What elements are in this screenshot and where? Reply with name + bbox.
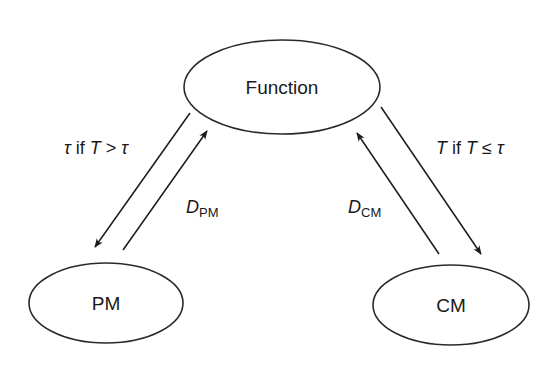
pm-label: PM xyxy=(92,293,121,314)
node-cm: CM xyxy=(373,265,529,345)
state-transition-diagram: Function PM CM τ if T > τ DPM DCM T if T… xyxy=(0,0,556,369)
label-function-to-pm: τ if T > τ xyxy=(64,138,129,158)
edge-cm-to-function xyxy=(357,133,439,254)
edge-function-to-pm xyxy=(95,113,190,247)
edge-function-to-cm xyxy=(381,107,481,254)
function-label: Function xyxy=(246,77,319,98)
label-pm-to-function: DPM xyxy=(186,197,219,220)
node-pm: PM xyxy=(29,263,183,343)
label-function-to-cm: T if T ≤ τ xyxy=(436,138,505,158)
label-cm-to-function: DCM xyxy=(348,197,381,220)
cm-label: CM xyxy=(436,295,466,316)
node-function: Function xyxy=(184,40,380,134)
